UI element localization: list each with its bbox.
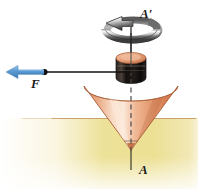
force-arrowhead [6, 66, 18, 79]
ground-fade-bottom [0, 118, 198, 189]
label-axis-bottom: A [138, 162, 148, 177]
ground-surface [0, 118, 198, 189]
label-force: F [30, 76, 40, 91]
spinning-top-diagram: A′ A F [0, 0, 198, 189]
label-axis-top: A′ [139, 6, 153, 21]
physics-figure: A′ A F [0, 0, 198, 189]
force-shaft [18, 69, 44, 74]
spin-ribbon-right [149, 22, 157, 30]
force-arrow-icon [6, 66, 132, 79]
cylinder-knob [116, 52, 146, 84]
